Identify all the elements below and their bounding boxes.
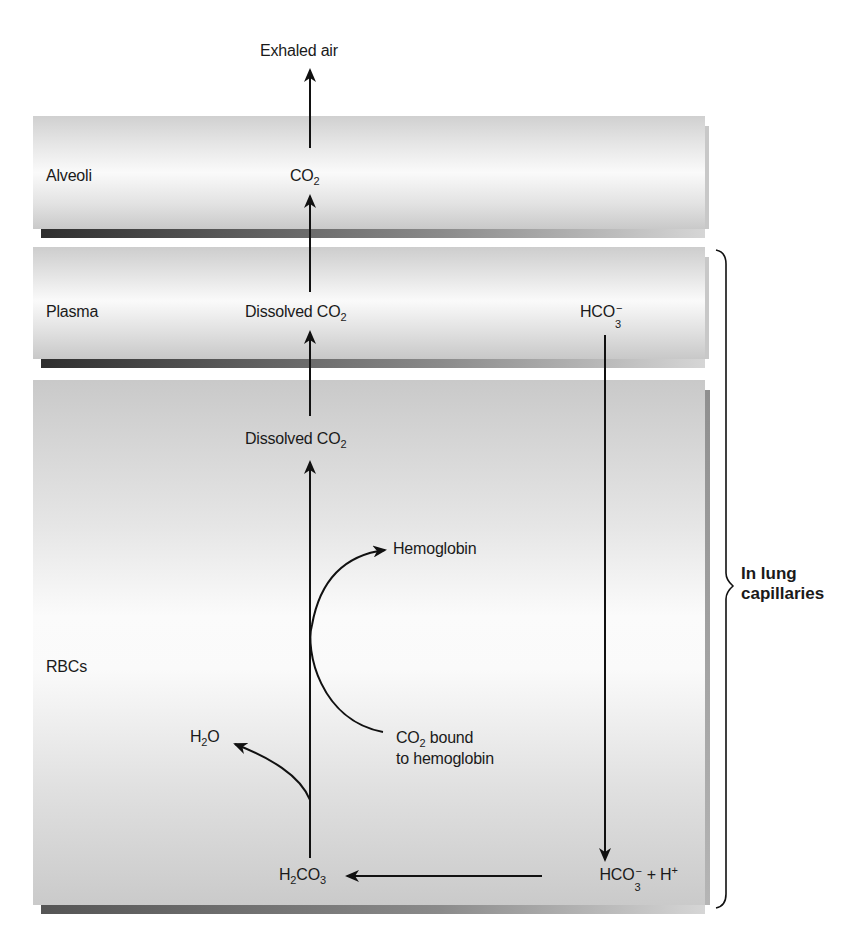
bracket-label-line1: In lung — [741, 564, 824, 584]
bracket-label-line2: capillaries — [741, 584, 824, 604]
reaction-arrows — [0, 0, 854, 934]
curly-brace — [716, 250, 733, 908]
arrow-h2co3-to-water — [235, 744, 310, 800]
arrow-bound-to-hemoglobin — [310, 550, 385, 732]
lung-capillaries-label: In lung capillaries — [741, 564, 824, 604]
